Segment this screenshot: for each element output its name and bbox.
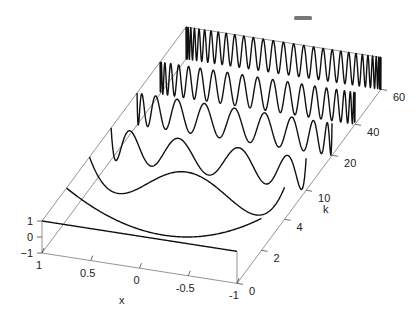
x-tick	[188, 271, 190, 276]
k-axis-label: k	[323, 203, 329, 215]
x-tick-label: 0	[133, 274, 139, 286]
k-axis-line	[237, 89, 381, 283]
k-tick-label: 0	[249, 285, 255, 297]
k-tick-label: 2	[273, 252, 279, 264]
k-tick	[285, 219, 291, 220]
x-tick-label: -1	[229, 289, 239, 301]
z-tick-label: −1	[20, 247, 33, 259]
x-tick	[91, 256, 93, 261]
x-tick-label: 1	[36, 259, 42, 271]
x-tick-label: -0.5	[176, 282, 195, 294]
k-tick-label: 60	[393, 91, 405, 103]
curve-k-10	[111, 128, 306, 190]
k-tick	[355, 124, 361, 125]
z-tick-label: 1	[27, 215, 33, 227]
x-tick-label: 0.5	[80, 267, 95, 279]
k-tick	[332, 155, 338, 156]
k-tick-label: 40	[367, 126, 379, 138]
curve-series	[42, 27, 381, 251]
k-tick	[261, 250, 267, 251]
k-tick-label: 4	[297, 221, 303, 233]
chebyshev-waterfall-chart: 10.50-0.5-110−102410204060 x k	[0, 0, 420, 325]
z-tick-label: 0	[27, 231, 33, 243]
k-tick	[237, 283, 243, 284]
x-axis-label: x	[119, 294, 125, 306]
k-tick	[381, 89, 387, 90]
curve-k-20	[137, 93, 332, 155]
k-tick	[306, 190, 312, 191]
curve-k-4	[90, 157, 285, 215]
title-artifact	[294, 16, 312, 20]
k-tick-label: 20	[344, 157, 356, 169]
x-tick	[140, 263, 142, 268]
